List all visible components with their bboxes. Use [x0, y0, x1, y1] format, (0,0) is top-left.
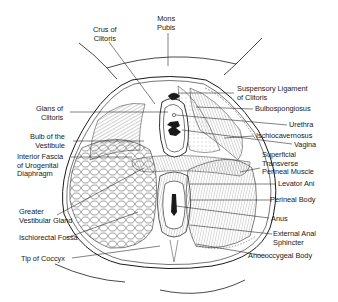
label-perineal-body: Perineal Body — [270, 196, 315, 205]
label-superficial-transverse-perineal-muscle: Superficial Transverse Perineal Muscle — [262, 151, 314, 177]
label-crus-of-clitoris: Crus of Clitoris — [93, 26, 116, 43]
label-urethra: Urethra — [289, 121, 313, 130]
label-levator-ani: Levator Ani — [278, 180, 314, 189]
label-mons-pubis: Mons Pubis — [157, 15, 175, 32]
anus-opening — [171, 194, 177, 216]
label-suspensory-ligament: Suspensory Ligament of Clitoris — [237, 85, 308, 102]
label-bulb-of-the-vestibule: Bulb of the Vestibule — [30, 133, 65, 150]
label-external-anal-sphincter: External Anal Sphincter — [273, 230, 316, 247]
label-interior-fascia: Interior Fascia of Urogenital Diaphragm — [17, 153, 63, 179]
label-anus: Anus — [271, 215, 288, 224]
label-glans-of-clitoris: Glans of Clitoris — [36, 105, 63, 122]
label-anococcygeal-body: Anococcygeal Body — [248, 252, 312, 261]
label-vagina: Vagina — [294, 141, 316, 150]
label-ischiorectal-fossa: Ischiorectal Fossa — [19, 234, 78, 243]
label-tip-of-coccyx: Tip of Coccyx — [21, 255, 65, 264]
label-greater-vestibular-gland: Greater Vestibular Gland — [19, 208, 72, 225]
label-bulbospongiosus: Bulbospongiosus — [255, 105, 311, 114]
